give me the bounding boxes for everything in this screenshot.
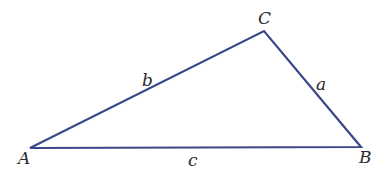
triangle-diagram: A B C a b c (0, 0, 389, 178)
vertex-label-c: C (258, 8, 271, 28)
triangle-svg: A B C a b c (0, 0, 389, 178)
side-label-a: a (316, 74, 326, 94)
vertex-label-b: B (358, 147, 372, 167)
vertex-label-a: A (16, 148, 30, 168)
side-label-c: c (188, 150, 198, 170)
side-label-b: b (142, 70, 153, 90)
triangle-abc (30, 31, 361, 148)
